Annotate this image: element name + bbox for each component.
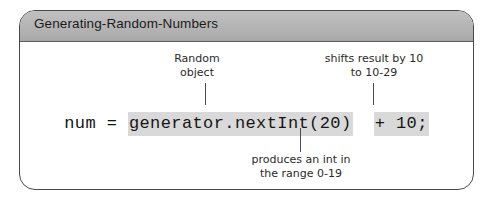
figure-title-band: Generating-Random-Numbers xyxy=(20,11,473,42)
code-highlight-offset: + 10; xyxy=(374,112,429,136)
code-annotation-figure: Generating-Random-Numbers num = generato… xyxy=(0,0,500,203)
code-gap xyxy=(353,114,374,133)
annotation-shifts-result: shifts result by 10 to 10-29 xyxy=(312,52,436,79)
figure-title: Generating-Random-Numbers xyxy=(34,16,218,31)
annotation-produces-int: produces an int in the range 0-19 xyxy=(236,153,366,180)
code-prefix: num = xyxy=(64,114,128,133)
code-highlight-generator-call: generator.nextInt(20) xyxy=(128,112,353,136)
leader-line-random-object xyxy=(205,83,206,105)
code-statement: num = generator.nextInt(20) + 10; xyxy=(20,113,473,135)
leader-line-shifts-result xyxy=(373,83,374,105)
annotation-random-object: Random object xyxy=(151,52,243,79)
leader-line-produces-int xyxy=(300,128,301,152)
